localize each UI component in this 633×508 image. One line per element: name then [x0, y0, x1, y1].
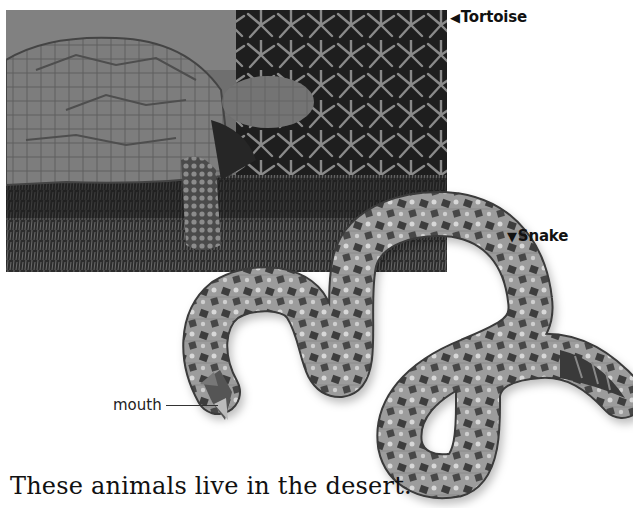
down-arrow-icon: ▼ — [507, 229, 517, 244]
snake-label-text: Snake — [518, 227, 568, 245]
snake-label: ▼Snake — [507, 227, 568, 245]
snake-illustration — [0, 0, 633, 508]
mouth-leader-line — [166, 405, 218, 406]
mouth-label: mouth — [113, 396, 162, 414]
caption: These animals live in the desert. — [10, 472, 412, 500]
